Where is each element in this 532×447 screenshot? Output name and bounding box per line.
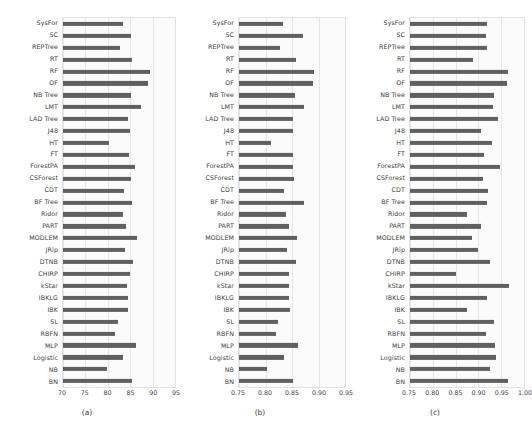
bar-row [239,268,345,280]
bar [239,284,289,288]
bar-row [63,30,175,42]
bar-row [410,18,524,30]
bar [410,165,500,169]
y-tick-label: DTNB [351,256,409,268]
bar-row [63,351,175,363]
y-tick-label: NB Tree [4,89,62,101]
y-tick-label: SysFor [4,17,62,29]
y-tick-label: MODLEM [351,232,409,244]
bar [239,165,293,169]
bar [63,129,130,133]
axes-c [409,17,525,388]
bar-row [410,197,524,209]
bar [239,105,304,109]
bar [410,224,481,228]
bar [63,331,115,335]
y-tick-label: Ridor [4,209,62,221]
bar [410,343,495,347]
bar [63,260,133,264]
bar-row [63,161,175,173]
bar-row [410,328,524,340]
bar [239,260,296,264]
x-tick-label: 90 [149,390,157,396]
bar [410,153,484,157]
bar [239,248,287,252]
y-tick-label: NB [4,364,62,376]
bar-row [410,137,524,149]
bar [410,69,508,73]
y-tick-label: CDT [180,185,238,197]
bar [410,355,496,359]
y-tick-label: SC [351,29,409,41]
y-tick-label: SysFor [351,17,409,29]
bar [410,284,509,288]
y-tick-label: RBFN [180,328,238,340]
y-tick-label: JRip [4,244,62,256]
bar-row [63,173,175,185]
y-tick-label: HT [180,137,238,149]
bar [239,355,284,359]
y-tick-label: JRip [180,244,238,256]
bar-row [410,244,524,256]
y-tick-label: BF Tree [180,197,238,209]
bar-row [410,268,524,280]
bar [239,296,289,300]
y-tick-label: NB Tree [351,89,409,101]
bar-row [410,339,524,351]
y-tick-label: CHIRP [180,268,238,280]
bar [239,320,278,324]
bar-row [410,42,524,54]
bar-row [63,197,175,209]
bar-row [239,89,345,101]
bar [239,343,298,347]
y-tick-label: IBK [180,304,238,316]
y-tick-label: FT [4,149,62,161]
bar-row [63,54,175,66]
bar-row [239,209,345,221]
bar [63,272,130,276]
plot-area-b: SysForSCREPTreeRTRFOFNB TreeLMTLAD TreeJ… [180,0,351,447]
bar-row [239,173,345,185]
bar [239,189,284,193]
bar [410,189,488,193]
bar-row [239,375,345,387]
bar-row [63,280,175,292]
x-tick-label: 0.90 [472,390,486,396]
y-tick-label: kStar [180,280,238,292]
bar-row [239,30,345,42]
bar [410,236,472,240]
y-tick-label: LAD Tree [351,113,409,125]
bar-row [239,161,345,173]
bar-row [410,161,524,173]
y-tick-label: ForestPA [4,161,62,173]
y-tick-label: MODLEM [4,232,62,244]
bar-row [239,316,345,328]
bar-row [239,232,345,244]
axes-a [62,17,176,388]
y-tick-label: kStar [351,280,409,292]
bar-row [410,256,524,268]
bar [63,81,148,85]
bar [239,93,295,97]
bar-row [239,185,345,197]
y-tick-label: MLP [180,340,238,352]
y-tick-label: CSForest [180,173,238,185]
bar-row [239,220,345,232]
x-tick-label: 0.85 [448,390,462,396]
bar [410,117,498,121]
bar-row [63,78,175,90]
bar [410,129,481,133]
y-tick-label: REPTree [351,41,409,53]
bar [239,69,314,73]
y-tick-label: PART [180,220,238,232]
bar [63,46,120,50]
x-tick-label: 1.00 [518,390,532,396]
bar-row [239,292,345,304]
bar [410,22,487,26]
bar [410,212,467,216]
bar-row [410,125,524,137]
bar-row [63,185,175,197]
x-tick-label: 0.80 [425,390,439,396]
bar [63,236,137,240]
